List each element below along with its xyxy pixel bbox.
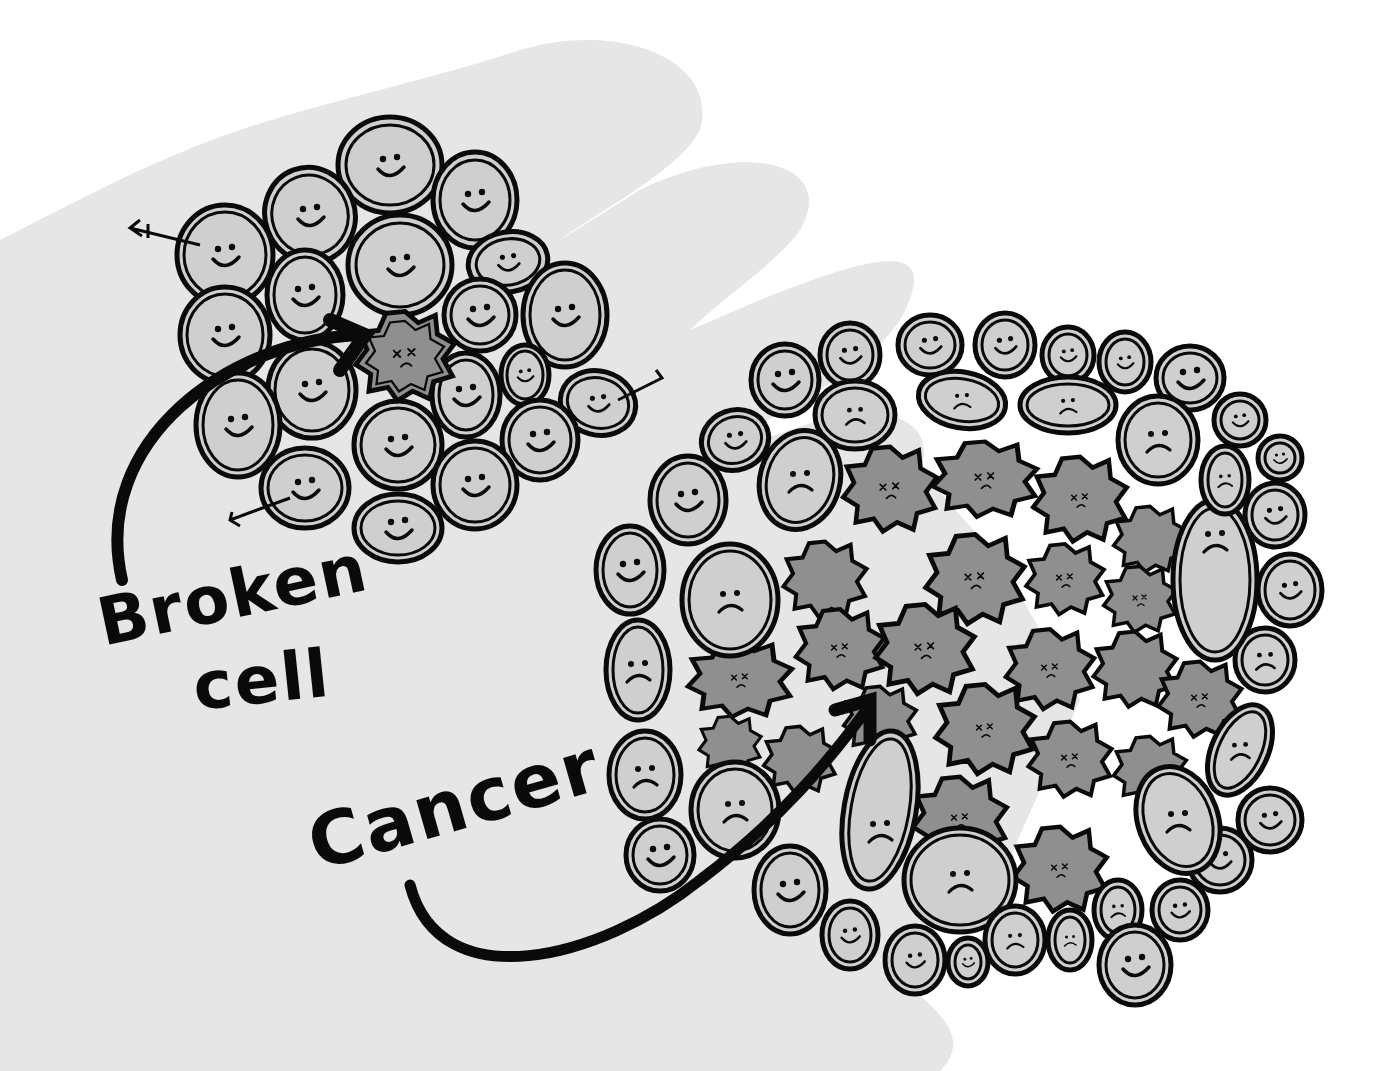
cells-illustration bbox=[0, 0, 1400, 1071]
broken-cell-label-line2: cell bbox=[190, 641, 333, 721]
